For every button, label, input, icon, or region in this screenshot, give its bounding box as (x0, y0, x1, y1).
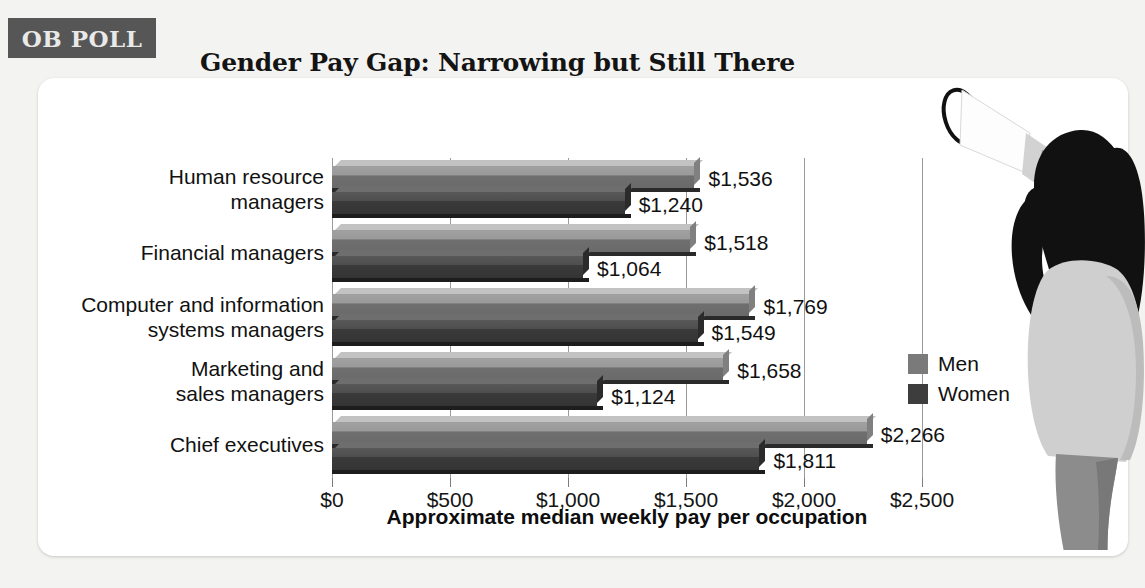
bar-face (332, 230, 690, 252)
bar-value-label: $1,124 (611, 385, 675, 409)
ob-poll-badge: OB POLL (8, 18, 156, 58)
bar-side-bevel (694, 157, 700, 185)
bar-men (332, 294, 749, 316)
bar-women (332, 384, 597, 406)
legend-item[interactable]: Women (908, 382, 1010, 406)
bar-side-bevel (749, 285, 755, 313)
bar-women (332, 192, 625, 214)
bar-side-bevel (698, 311, 704, 339)
legend-item[interactable]: Men (908, 352, 1010, 376)
poll-graphic: OB POLL Gender Pay Gap: Narrowing but St… (0, 0, 1145, 588)
bar-top-bevel (335, 416, 876, 422)
bar-men (332, 166, 694, 188)
x-axis-tick (804, 478, 805, 487)
bar-side-bevel (867, 413, 873, 441)
bar-shadow (332, 406, 603, 410)
bar-shadow (332, 214, 631, 218)
legend-label: Women (938, 382, 1010, 406)
bar-women (332, 448, 759, 470)
bar-face (332, 358, 723, 380)
bar-top-bevel (335, 378, 606, 384)
category-label: Marketing and sales managers (24, 356, 324, 406)
bar-side-bevel (690, 221, 696, 249)
bar-women (332, 320, 698, 342)
bar-face (332, 448, 759, 470)
bar-top-bevel (335, 288, 758, 294)
legend-label: Men (938, 352, 979, 376)
bar-side-bevel (583, 247, 589, 275)
bar-value-label: $1,658 (737, 359, 801, 383)
bar-face (332, 422, 867, 444)
bar-face (332, 320, 698, 342)
bar-face (332, 166, 694, 188)
bar-value-label: $1,064 (597, 257, 661, 281)
category-label: Human resource managers (24, 164, 324, 214)
bar-top-bevel (335, 442, 768, 448)
bar-top-bevel (335, 352, 732, 358)
bar-shadow (332, 278, 589, 282)
legend-swatch (908, 354, 928, 374)
bar-men (332, 230, 690, 252)
bar-face (332, 294, 749, 316)
bar-side-bevel (759, 439, 765, 467)
bar-top-bevel (335, 186, 634, 192)
bar-men (332, 422, 867, 444)
bar-value-label: $1,549 (712, 321, 776, 345)
category-label: Financial managers (24, 240, 324, 265)
bar-men (332, 358, 723, 380)
bar-women (332, 256, 583, 278)
bar-top-bevel (335, 250, 592, 256)
bar-shadow (332, 470, 765, 474)
x-axis-tick (686, 478, 687, 487)
bar-top-bevel (335, 314, 707, 320)
bar-value-label: $1,769 (763, 295, 827, 319)
bar-face (332, 384, 597, 406)
chart-legend: MenWomen (908, 352, 1010, 412)
bar-face (332, 256, 583, 278)
x-axis-tick (568, 478, 569, 487)
bar-value-label: $1,240 (639, 193, 703, 217)
bar-top-bevel (335, 160, 703, 166)
legend-swatch (908, 384, 928, 404)
category-label: Chief executives (24, 432, 324, 457)
bar-value-label: $2,266 (881, 423, 945, 447)
page-title: Gender Pay Gap: Narrowing but Still Ther… (200, 48, 795, 77)
category-label: Computer and information systems manager… (24, 292, 324, 342)
bar-value-label: $1,536 (708, 167, 772, 191)
x-axis-title: Approximate median weekly pay per occupa… (332, 505, 922, 529)
plot-area: $0$500$1,000$1,500$2,000$2,500$1,536$1,2… (332, 158, 922, 478)
x-axis-tick (922, 478, 923, 487)
bar-side-bevel (625, 183, 631, 211)
badge-label: OB POLL (22, 25, 143, 52)
bar-face (332, 192, 625, 214)
bar-value-label: $1,811 (773, 449, 836, 473)
bar-side-bevel (597, 375, 603, 403)
bar-value-label: $1,518 (704, 231, 768, 255)
x-axis-tick (450, 478, 451, 487)
bar-shadow (332, 342, 704, 346)
x-axis-tick (332, 478, 333, 487)
bar-side-bevel (723, 349, 729, 377)
bar-top-bevel (335, 224, 699, 230)
